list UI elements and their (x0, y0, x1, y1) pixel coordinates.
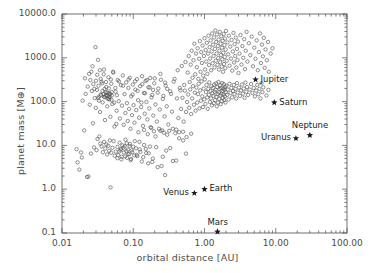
data-point (203, 37, 206, 40)
data-point (107, 76, 110, 79)
data-point (137, 131, 140, 134)
data-point (202, 54, 205, 57)
data-point (152, 114, 155, 117)
data-point (185, 135, 188, 138)
data-point (181, 139, 184, 142)
data-point (118, 117, 121, 120)
data-point (213, 66, 216, 69)
data-point (174, 159, 177, 162)
data-point (269, 52, 272, 55)
data-point (251, 65, 254, 68)
data-point (211, 43, 214, 46)
data-point (196, 47, 199, 50)
data-point (135, 108, 138, 111)
data-point (156, 165, 159, 168)
data-point (116, 157, 119, 160)
data-point (235, 81, 238, 84)
data-point (148, 107, 151, 110)
data-point (100, 145, 103, 148)
data-point (96, 73, 99, 76)
data-point (186, 71, 189, 74)
data-point (79, 151, 82, 154)
data-point (111, 146, 114, 149)
data-point (150, 126, 153, 129)
data-point (258, 32, 261, 35)
data-point (142, 143, 145, 146)
data-point (257, 92, 260, 95)
data-point (256, 83, 259, 86)
data-point (159, 72, 162, 75)
data-point (232, 31, 235, 34)
data-point (146, 118, 149, 121)
data-point (255, 39, 258, 42)
data-point (189, 132, 192, 135)
data-point (92, 82, 95, 85)
data-point (265, 94, 268, 97)
data-point (242, 87, 245, 90)
data-point (198, 89, 201, 92)
data-point (207, 87, 210, 90)
data-point (253, 95, 256, 98)
data-point (160, 164, 163, 167)
data-point (189, 88, 192, 91)
data-point (241, 92, 244, 95)
data-point (89, 78, 92, 81)
data-point (222, 32, 225, 35)
data-point (134, 147, 137, 150)
data-point (237, 71, 240, 74)
data-point (213, 98, 216, 101)
data-point (162, 131, 165, 134)
data-point (211, 62, 214, 65)
data-point (153, 77, 156, 80)
data-point (224, 48, 227, 51)
data-point (214, 29, 217, 32)
data-point (91, 65, 94, 68)
data-point (224, 66, 227, 69)
data-point (190, 49, 193, 52)
data-point (127, 86, 130, 89)
data-point (208, 81, 211, 84)
data-point (121, 74, 124, 77)
data-point (133, 80, 136, 83)
data-point (168, 129, 171, 132)
data-point (198, 107, 201, 110)
data-point (163, 173, 166, 176)
data-point (191, 76, 194, 79)
planet-marker-neptune (307, 132, 313, 138)
planet-marker-uranus (293, 135, 299, 141)
data-point (165, 105, 168, 108)
data-point (151, 157, 154, 160)
planet-label-mars: Mars (207, 217, 227, 227)
data-point (98, 110, 101, 113)
plot-canvas (0, 0, 375, 273)
data-point (195, 86, 198, 89)
data-point (206, 107, 209, 110)
data-point (118, 141, 121, 144)
data-point (231, 50, 234, 53)
data-point (221, 70, 224, 73)
data-point (207, 34, 210, 37)
data-point (222, 51, 225, 54)
data-point (182, 120, 185, 123)
data-point (239, 33, 242, 36)
data-point (223, 43, 226, 46)
data-point (193, 42, 196, 45)
planet-marker-jupiter (252, 76, 258, 82)
data-point (193, 73, 196, 76)
data-point (94, 45, 97, 48)
data-point (186, 93, 189, 96)
data-point (148, 145, 151, 148)
data-point (179, 107, 182, 110)
data-point (271, 47, 274, 50)
data-point (153, 82, 156, 85)
data-point (236, 91, 239, 94)
data-point (257, 50, 260, 53)
data-point (125, 101, 128, 104)
data-point (208, 45, 211, 48)
data-point (76, 161, 79, 164)
data-point (106, 105, 109, 108)
data-point (113, 125, 116, 128)
data-point (141, 124, 144, 127)
data-point (223, 37, 226, 40)
data-point (185, 100, 188, 103)
